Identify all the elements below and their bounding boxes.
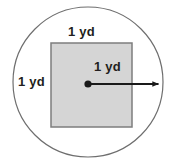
left-side-length-label: 1 yd xyxy=(18,75,45,88)
circle-center-dot xyxy=(84,80,91,87)
inner-square xyxy=(51,43,132,127)
geometry-figure: 1 yd 1 yd 1 yd xyxy=(0,0,177,162)
top-side-length-label: 1 yd xyxy=(68,25,95,38)
radius-length-label: 1 yd xyxy=(94,60,121,73)
